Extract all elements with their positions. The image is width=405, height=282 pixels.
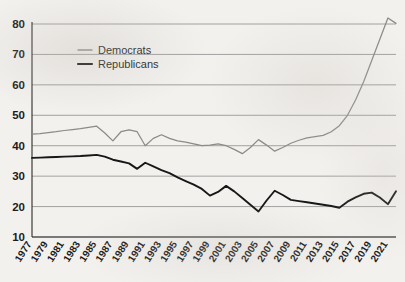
chart-canvas: 1020304050607080 19771979198119831985198…: [0, 0, 405, 282]
x-axis-tick-label: 2021: [368, 239, 390, 264]
line-chart: 1020304050607080 19771979198119831985198…: [0, 0, 405, 282]
x-axis-tick-label: 2009: [271, 239, 293, 264]
x-axis-tick-labels: 1977197919811983198519871989199119931995…: [12, 239, 389, 264]
data-series-group: [32, 18, 396, 212]
y-axis-tick-label: 40: [12, 140, 25, 152]
y-axis-tick-label: 50: [12, 109, 25, 121]
y-axis-tick-label: 80: [12, 18, 25, 30]
series-line-democrats: [32, 18, 396, 154]
series-line-republicans: [32, 155, 396, 212]
y-axis-tick-label: 60: [12, 79, 25, 91]
y-axis-tick-label: 20: [12, 201, 25, 213]
chart-legend: DemocratsRepublicans: [78, 44, 159, 70]
y-axis-tick-label: 30: [12, 170, 25, 182]
gridlines: [32, 24, 396, 237]
y-axis-tick-labels: 1020304050607080: [12, 18, 25, 243]
legend-label-democrats: Democrats: [98, 44, 152, 56]
y-axis-tick-label: 70: [12, 48, 25, 60]
legend-label-republicans: Republicans: [98, 58, 159, 70]
